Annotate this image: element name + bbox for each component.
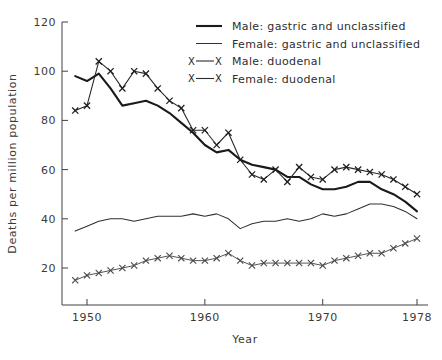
series-3-marker-0 xyxy=(72,277,78,283)
y-tick-label-40: 40 xyxy=(41,213,56,226)
legend-item-0[interactable]: Male: gastric and unclassified xyxy=(196,20,406,33)
series-3-marker-27 xyxy=(390,245,396,251)
series-2-marker-29 xyxy=(414,191,420,197)
series-3-marker-13 xyxy=(225,250,231,256)
y-tick-label-60: 60 xyxy=(41,164,56,177)
y-tick-label-20: 20 xyxy=(41,262,56,275)
series-2-marker-15 xyxy=(249,171,255,177)
legend-label-1: Female: gastric and unclassified xyxy=(232,38,420,51)
series-line-0 xyxy=(75,74,417,212)
legend-item-3[interactable]: XXFemale: duodenal xyxy=(188,73,336,86)
series-2-marker-2 xyxy=(96,58,102,64)
y-axis-title: Deaths per million population xyxy=(6,73,19,253)
series-2-marker-8 xyxy=(166,98,172,104)
legend-label-2: Male: duodenal xyxy=(232,55,321,68)
series-2-marker-7 xyxy=(155,85,161,91)
legend-item-1[interactable]: Female: gastric and unclassified xyxy=(196,38,420,51)
series-2-marker-0 xyxy=(72,107,78,113)
legend-x-marker-left-3: X xyxy=(188,73,195,84)
series-2-marker-9 xyxy=(178,105,184,111)
series-2-marker-16 xyxy=(261,176,267,182)
series-3-marker-14 xyxy=(237,258,243,264)
y-tick-label-80: 80 xyxy=(41,114,56,127)
x-axis-title: Year xyxy=(231,333,258,346)
x-tick-label-1970: 1970 xyxy=(308,311,338,324)
series-2-marker-13 xyxy=(225,130,231,136)
x-tick-label-1950: 1950 xyxy=(72,311,102,324)
legend-x-marker-left-2: X xyxy=(188,56,195,67)
line-chart: 20406080100120 1950196019701978 Male: ga… xyxy=(0,0,442,360)
y-axis-ticks: 20406080100120 xyxy=(34,16,69,275)
y-tick-label-100: 100 xyxy=(34,65,57,78)
series-2-marker-28 xyxy=(402,184,408,190)
chart-series-group xyxy=(72,58,420,283)
series-3-marker-28 xyxy=(402,240,408,246)
chart-legend: Male: gastric and unclassifiedFemale: ga… xyxy=(188,20,420,86)
x-tick-label-1960: 1960 xyxy=(190,311,220,324)
x-tick-label-1978: 1978 xyxy=(402,311,432,324)
series-2-marker-19 xyxy=(296,164,302,170)
series-line-1 xyxy=(75,204,417,231)
legend-x-marker-right-3: X xyxy=(215,73,222,84)
series-2-marker-3 xyxy=(107,68,113,74)
legend-item-2[interactable]: XXMale: duodenal xyxy=(188,55,321,68)
series-line-3 xyxy=(75,238,417,280)
series-2-marker-12 xyxy=(214,142,220,148)
series-2-marker-1 xyxy=(84,103,90,109)
series-3-marker-29 xyxy=(414,235,420,241)
chart-figure: 20406080100120 1950196019701978 Male: ga… xyxy=(0,0,442,360)
series-2-marker-4 xyxy=(119,85,125,91)
series-2-marker-18 xyxy=(284,179,290,185)
series-2-marker-27 xyxy=(390,176,396,182)
y-tick-label-120: 120 xyxy=(34,16,57,29)
legend-label-3: Female: duodenal xyxy=(232,73,336,86)
legend-label-0: Male: gastric and unclassified xyxy=(232,20,406,33)
x-axis-ticks: 1950196019701978 xyxy=(72,299,432,324)
legend-x-marker-right-2: X xyxy=(215,56,222,67)
